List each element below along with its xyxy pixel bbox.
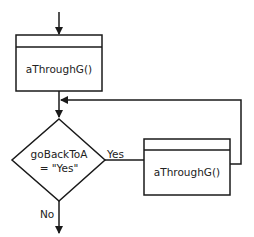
- top-process-label: aThroughG(): [26, 63, 92, 75]
- no-label: No: [40, 208, 54, 220]
- yes-label: Yes: [107, 148, 124, 160]
- loop-process-label: aThroughG(): [154, 166, 220, 178]
- decision-label-line2: = "Yes": [40, 162, 79, 174]
- flowchart-canvas: [0, 0, 254, 237]
- decision-diamond: [12, 119, 105, 201]
- decision-label-line1: goBackToA: [31, 148, 88, 160]
